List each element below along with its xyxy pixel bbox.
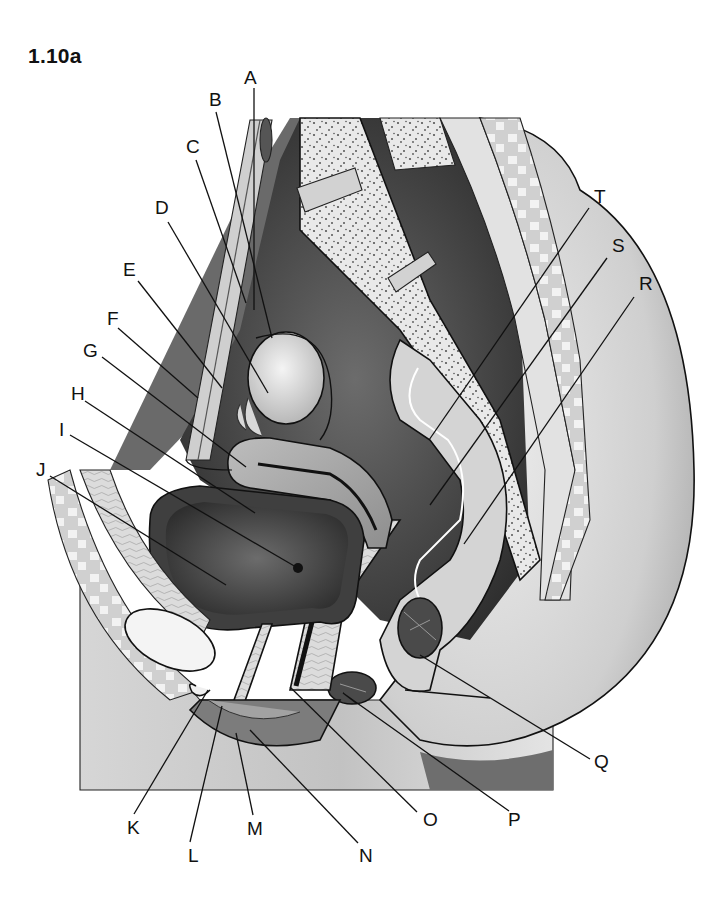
pelvis-diagram: ABCDEFGHIJKLMNOPQRST <box>0 0 713 902</box>
label-c: C <box>186 136 200 157</box>
label-e: E <box>123 259 136 280</box>
label-h: H <box>71 383 85 404</box>
label-g: G <box>83 340 98 361</box>
label-s: S <box>612 235 625 256</box>
label-t: T <box>594 186 606 207</box>
label-r: R <box>639 273 653 294</box>
label-i: I <box>59 419 64 440</box>
iliac-vessel-cut <box>260 118 272 162</box>
label-n: N <box>359 845 373 866</box>
label-o: O <box>423 809 438 830</box>
label-p: P <box>508 809 521 830</box>
label-d: D <box>155 197 169 218</box>
label-l: L <box>188 845 199 866</box>
label-q: Q <box>594 751 609 772</box>
label-m: M <box>247 818 263 839</box>
urinary-bladder-lumen <box>166 502 348 615</box>
label-k: K <box>127 817 140 838</box>
label-b: B <box>209 89 222 110</box>
label-j: J <box>36 459 46 480</box>
urethra <box>234 624 272 704</box>
label-f: F <box>107 308 119 329</box>
ureteric-orifice <box>293 563 303 573</box>
label-a: A <box>244 67 257 88</box>
